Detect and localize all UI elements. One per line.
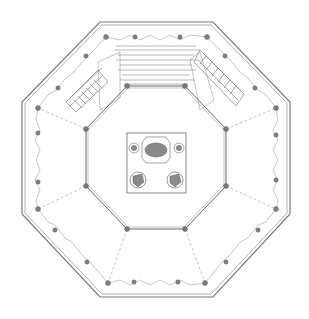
- center-equipment-box: [127, 133, 186, 193]
- floor-plan-drawing: [0, 0, 309, 319]
- deck-planks: [114, 46, 200, 84]
- right-staircase: [190, 50, 244, 110]
- left-staircase: [66, 52, 120, 112]
